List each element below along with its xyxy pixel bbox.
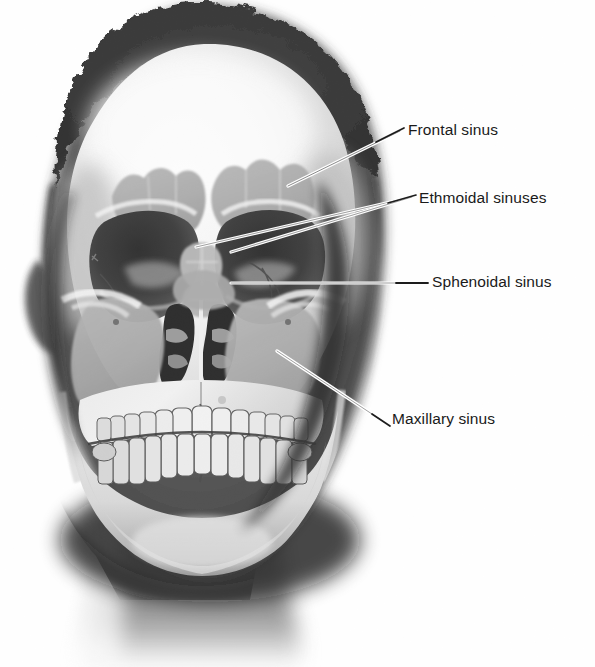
sinus-radiograph-figure: Frontal sinus Ethmoidal sinuses Sphenoid…	[0, 0, 595, 667]
label-maxillary-sinus: Maxillary sinus	[392, 411, 495, 427]
label-frontal-sinus: Frontal sinus	[408, 122, 498, 138]
label-sphenoidal-sinus: Sphenoidal sinus	[432, 274, 552, 290]
skull-radiograph-image	[0, 0, 595, 667]
label-ethmoidal-sinuses: Ethmoidal sinuses	[419, 190, 547, 206]
head-soft-tissue-group	[0, 0, 595, 667]
